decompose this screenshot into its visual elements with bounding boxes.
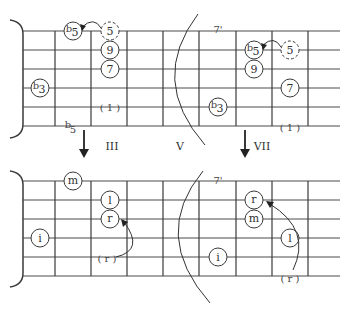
root-mark: ( 1 ) bbox=[100, 102, 121, 113]
position-markers: III V VII bbox=[79, 130, 270, 158]
note-b5: b 5 bbox=[64, 22, 82, 40]
svg-text:9: 9 bbox=[251, 63, 258, 76]
fret-label-7: 7' bbox=[213, 24, 222, 35]
slide-from-r: ( r ) bbox=[281, 273, 300, 284]
root-mark: ( 1 ) bbox=[280, 122, 301, 133]
note-b3: b 3 bbox=[209, 98, 227, 116]
frets bbox=[55, 181, 308, 276]
note-7: 7 bbox=[281, 79, 299, 97]
svg-text:r: r bbox=[107, 212, 113, 225]
position-label-V: V bbox=[175, 140, 185, 153]
slide-arrow-curve bbox=[116, 222, 133, 257]
finger-r: r bbox=[245, 191, 263, 209]
top-fretboard: b 5 5 9 7 b 3 ( 1 ) b 5 7' bbox=[10, 14, 340, 145]
note-5-dashed: 5 bbox=[281, 41, 299, 59]
svg-text:l: l bbox=[108, 194, 112, 207]
svg-text:m: m bbox=[68, 174, 79, 187]
svg-text:i: i bbox=[38, 232, 42, 245]
arrow-down-icon bbox=[240, 149, 250, 158]
svg-text:m: m bbox=[249, 212, 260, 225]
svg-text:3: 3 bbox=[217, 102, 224, 115]
bottom-fretboard: m l r i ( r ) 7' r m l bbox=[10, 171, 340, 303]
position-divider-curve bbox=[175, 14, 205, 145]
fret-label-7: 7' bbox=[213, 175, 222, 186]
svg-text:i: i bbox=[216, 251, 220, 264]
arrow-down-icon bbox=[79, 149, 89, 158]
note-9: 9 bbox=[245, 60, 263, 78]
svg-text:5: 5 bbox=[107, 25, 114, 38]
frets bbox=[55, 31, 308, 126]
fretboard-diagram: b 5 5 9 7 b 3 ( 1 ) b 5 7' bbox=[0, 0, 347, 312]
below-label-b5: b 5 bbox=[65, 119, 76, 135]
finger-m: m bbox=[64, 172, 82, 190]
note-9: 9 bbox=[101, 41, 119, 59]
slide-from-r: ( r ) bbox=[98, 253, 117, 264]
position-label-III: III bbox=[105, 140, 118, 153]
note-b3: b 3 bbox=[31, 79, 49, 97]
nut-bracket bbox=[10, 171, 23, 287]
nut-bracket bbox=[10, 20, 23, 138]
finger-m: m bbox=[245, 210, 263, 228]
note-7: 7 bbox=[101, 60, 119, 78]
svg-text:5: 5 bbox=[287, 44, 294, 57]
arrowhead-icon bbox=[266, 201, 274, 208]
svg-text:7: 7 bbox=[287, 82, 294, 95]
note-b5: b 5 bbox=[245, 41, 263, 59]
svg-text:3: 3 bbox=[39, 83, 46, 96]
svg-text:5: 5 bbox=[70, 124, 76, 135]
svg-text:9: 9 bbox=[107, 44, 114, 57]
strings bbox=[23, 181, 340, 276]
svg-text:7: 7 bbox=[107, 63, 114, 76]
finger-r: r bbox=[101, 210, 119, 228]
svg-text:l: l bbox=[288, 232, 292, 245]
svg-text:5: 5 bbox=[253, 45, 260, 58]
position-divider-curve bbox=[178, 171, 210, 303]
note-5-dashed: 5 bbox=[101, 22, 119, 40]
svg-text:r: r bbox=[251, 193, 257, 206]
finger-l: l bbox=[101, 191, 119, 209]
finger-i: i bbox=[209, 248, 227, 266]
svg-text:5: 5 bbox=[72, 26, 79, 39]
position-label-VII: VII bbox=[253, 140, 271, 153]
finger-i: i bbox=[31, 229, 49, 247]
